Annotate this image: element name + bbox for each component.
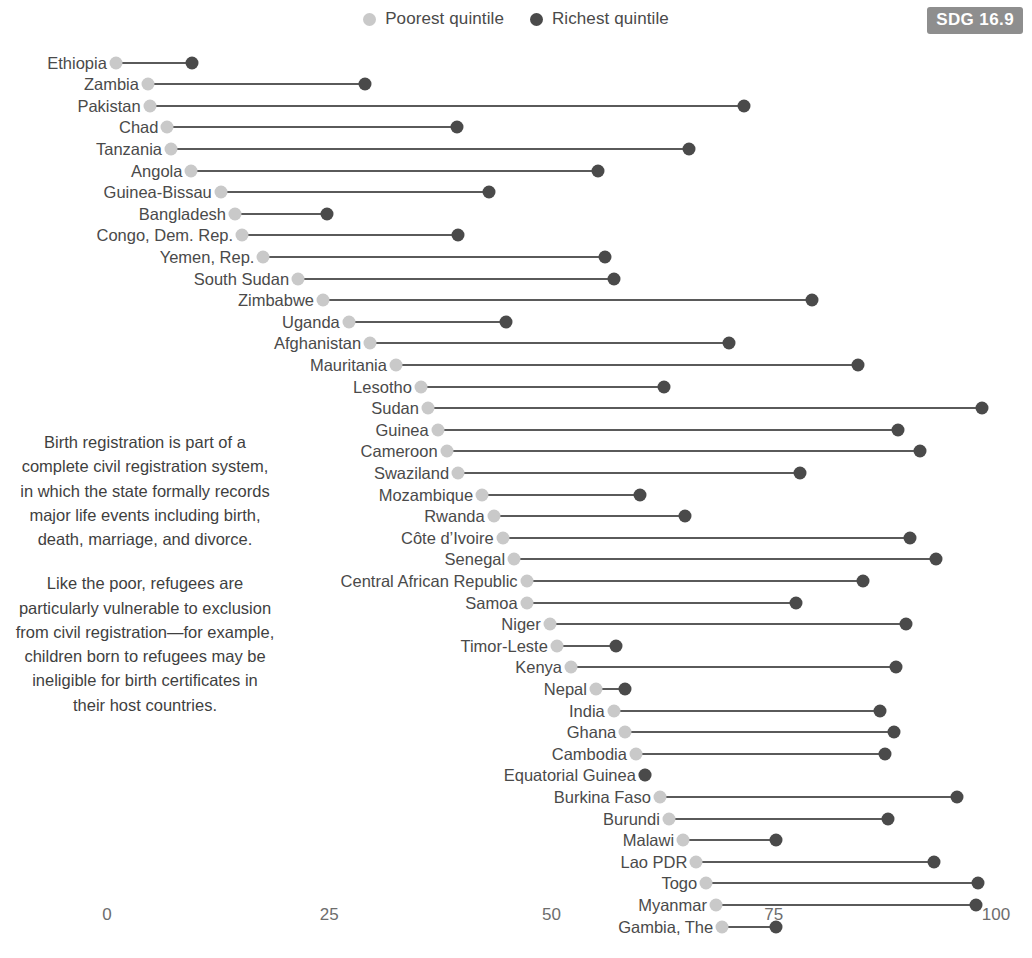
data-point-poorest[interactable] <box>389 358 402 371</box>
data-point-richest[interactable] <box>186 56 199 69</box>
data-point-poorest[interactable] <box>520 574 533 587</box>
data-point-poorest[interactable] <box>165 142 178 155</box>
data-point-richest[interactable] <box>619 682 632 695</box>
connector-line <box>263 256 604 258</box>
data-point-richest[interactable] <box>591 164 604 177</box>
row-label: Cameroon <box>361 443 438 460</box>
data-point-richest[interactable] <box>678 510 691 523</box>
data-point-poorest[interactable] <box>520 596 533 609</box>
data-point-richest[interactable] <box>887 726 900 739</box>
data-point-richest[interactable] <box>789 596 802 609</box>
chart-row: Angola <box>0 160 1032 182</box>
data-point-richest[interactable] <box>856 574 869 587</box>
data-point-poorest[interactable] <box>257 250 270 263</box>
data-point-richest[interactable] <box>900 618 913 631</box>
data-point-richest[interactable] <box>483 186 496 199</box>
data-point-poorest[interactable] <box>452 466 465 479</box>
row-label: Angola <box>131 162 182 179</box>
data-point-richest[interactable] <box>852 358 865 371</box>
data-point-richest[interactable] <box>914 445 927 458</box>
data-point-poorest[interactable] <box>414 380 427 393</box>
data-point-richest[interactable] <box>634 488 647 501</box>
data-point-richest[interactable] <box>607 272 620 285</box>
data-point-poorest[interactable] <box>185 164 198 177</box>
data-point-poorest[interactable] <box>677 834 690 847</box>
data-point-poorest[interactable] <box>421 402 434 415</box>
data-point-poorest[interactable] <box>496 531 509 544</box>
row-label: India <box>569 702 605 719</box>
data-point-poorest[interactable] <box>607 704 620 717</box>
data-point-poorest[interactable] <box>440 445 453 458</box>
data-point-richest[interactable] <box>321 207 334 220</box>
data-point-poorest[interactable] <box>431 423 444 436</box>
data-point-poorest[interactable] <box>589 682 602 695</box>
row-label: Guinea-Bissau <box>104 184 212 201</box>
data-point-poorest[interactable] <box>690 855 703 868</box>
connector-line <box>116 62 192 64</box>
data-point-richest[interactable] <box>878 747 891 760</box>
data-point-richest[interactable] <box>683 142 696 155</box>
row-label: Kenya <box>515 659 562 676</box>
data-point-richest[interactable] <box>452 229 465 242</box>
data-point-poorest[interactable] <box>292 272 305 285</box>
data-point-richest[interactable] <box>769 834 782 847</box>
data-point-poorest[interactable] <box>653 790 666 803</box>
row-label: Ghana <box>567 724 617 741</box>
data-point-richest[interactable] <box>970 898 983 911</box>
data-point-poorest[interactable] <box>700 877 713 890</box>
data-point-poorest[interactable] <box>550 639 563 652</box>
data-point-poorest[interactable] <box>487 510 500 523</box>
data-point-poorest[interactable] <box>662 812 675 825</box>
data-point-poorest[interactable] <box>508 553 521 566</box>
data-point-richest[interactable] <box>930 553 943 566</box>
data-point-poorest[interactable] <box>161 121 174 134</box>
data-point-richest[interactable] <box>723 337 736 350</box>
connector-line <box>370 342 729 344</box>
data-point-poorest[interactable] <box>364 337 377 350</box>
connector-line <box>614 710 881 712</box>
data-point-richest[interactable] <box>598 250 611 263</box>
data-point-richest[interactable] <box>975 402 988 415</box>
connector-line <box>527 602 796 604</box>
data-point-richest[interactable] <box>927 855 940 868</box>
chart-row: Ethiopia <box>0 52 1032 74</box>
data-point-poorest[interactable] <box>214 186 227 199</box>
data-point-poorest[interactable] <box>565 661 578 674</box>
data-point-poorest[interactable] <box>109 56 122 69</box>
data-point-richest[interactable] <box>658 380 671 393</box>
connector-line <box>660 796 957 798</box>
data-point-richest[interactable] <box>500 315 513 328</box>
data-point-richest[interactable] <box>770 920 783 933</box>
data-point-poorest[interactable] <box>709 898 722 911</box>
data-point-richest[interactable] <box>950 790 963 803</box>
data-point-richest[interactable] <box>638 769 651 782</box>
data-point-poorest[interactable] <box>543 618 556 631</box>
data-point-poorest[interactable] <box>476 488 489 501</box>
data-point-richest[interactable] <box>609 639 622 652</box>
data-point-richest[interactable] <box>358 78 371 91</box>
data-point-poorest[interactable] <box>716 920 729 933</box>
chart-row: Congo, Dem. Rep. <box>0 224 1032 246</box>
data-point-richest[interactable] <box>903 531 916 544</box>
axis-tick: 50 <box>542 905 561 925</box>
data-point-richest[interactable] <box>972 877 985 890</box>
connector-line <box>683 839 775 841</box>
data-point-richest[interactable] <box>738 99 751 112</box>
data-point-richest[interactable] <box>794 466 807 479</box>
data-point-richest[interactable] <box>890 661 903 674</box>
data-point-richest[interactable] <box>874 704 887 717</box>
data-point-poorest[interactable] <box>629 747 642 760</box>
data-point-richest[interactable] <box>881 812 894 825</box>
data-point-poorest[interactable] <box>229 207 242 220</box>
data-point-poorest[interactable] <box>143 99 156 112</box>
data-point-poorest[interactable] <box>236 229 249 242</box>
data-point-richest[interactable] <box>451 121 464 134</box>
data-point-poorest[interactable] <box>317 294 330 307</box>
data-point-poorest[interactable] <box>141 78 154 91</box>
data-point-poorest[interactable] <box>342 315 355 328</box>
data-point-poorest[interactable] <box>619 726 632 739</box>
row-label: Niger <box>501 616 540 633</box>
connector-line <box>438 429 899 431</box>
data-point-richest[interactable] <box>805 294 818 307</box>
data-point-richest[interactable] <box>892 423 905 436</box>
